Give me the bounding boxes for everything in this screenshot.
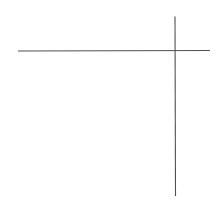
diagram-canvas [0, 0, 218, 206]
vertical-line [175, 17, 176, 197]
horizontal-line [18, 51, 210, 52]
